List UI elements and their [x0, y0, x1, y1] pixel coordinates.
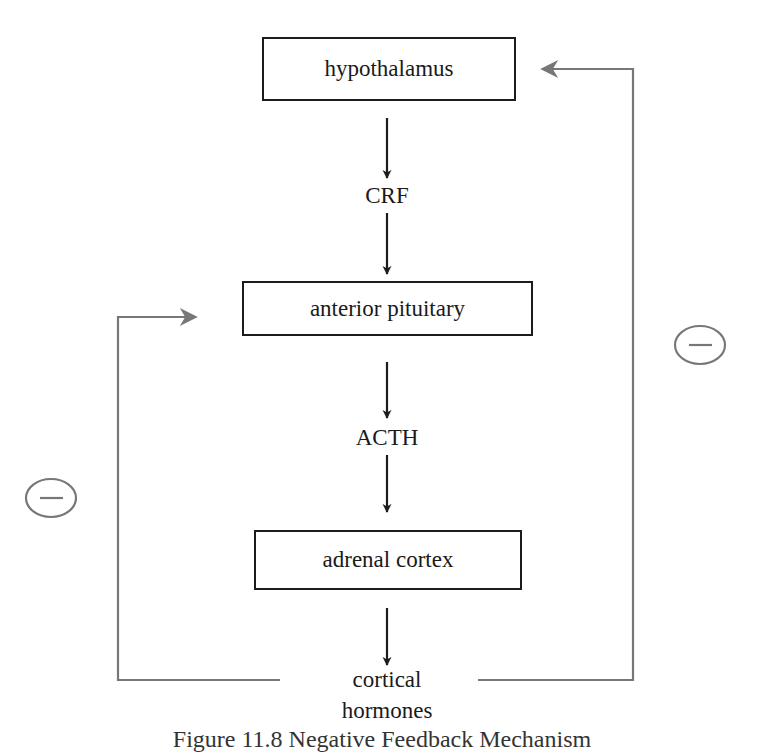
- label-acth: ACTH: [337, 422, 437, 453]
- label-cortical-hormones: cortical hormones: [287, 664, 487, 726]
- node-anterior-pituitary: anterior pituitary: [242, 281, 533, 336]
- figure-caption: Figure 11.8 Negative Feedback Mechanism: [0, 726, 764, 753]
- label-cortical-hormones-line2: hormones: [287, 695, 487, 726]
- node-anterior-pituitary-label: anterior pituitary: [310, 296, 465, 322]
- node-adrenal-cortex: adrenal cortex: [254, 530, 522, 590]
- node-hypothalamus: hypothalamus: [262, 37, 516, 101]
- node-adrenal-cortex-label: adrenal cortex: [323, 547, 454, 573]
- label-cortical-hormones-line1: cortical: [287, 664, 487, 695]
- label-crf: CRF: [337, 180, 437, 211]
- feedback-line-to-anterior-pituitary: [118, 317, 280, 680]
- node-hypothalamus-label: hypothalamus: [324, 56, 453, 82]
